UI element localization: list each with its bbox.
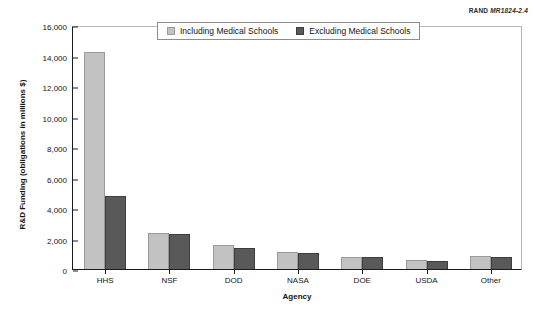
source-credit: RAND MR1824-2.4 (469, 7, 528, 14)
y-tick-mark (73, 271, 78, 272)
bar-other-excluding[interactable] (491, 257, 512, 269)
bar-group: NSF (137, 27, 201, 269)
x-tick-label-dod: DOD (225, 276, 243, 285)
figure-container: RAND MR1824-2.4 R&D Funding (obligations… (0, 0, 540, 313)
bar-dod-including[interactable] (213, 245, 234, 269)
y-tick-label: 0 (63, 267, 67, 276)
bar-nasa-excluding[interactable] (298, 253, 319, 269)
bar-series-container: HHSNSFDODNASADOEUSDAOther (73, 27, 521, 269)
x-tick-mark (427, 269, 428, 274)
y-axis-title: R&D Funding (obligations in millions $) (18, 55, 27, 255)
x-tick-label-other: Other (481, 276, 501, 285)
y-tick-label: 4,000 (47, 206, 67, 215)
bar-doe-including[interactable] (341, 257, 362, 269)
bar-nsf-excluding[interactable] (169, 234, 190, 269)
legend-swatch-icon (167, 27, 175, 35)
y-tick-label: 12,000 (43, 84, 67, 93)
bar-group: DOE (330, 27, 394, 269)
source-credit-code: MR1824-2.4 (490, 7, 528, 14)
x-tick-label-usda: USDA (415, 276, 437, 285)
bar-nasa-including[interactable] (277, 252, 298, 269)
legend-entry-excluding[interactable]: Excluding Medical Schools (296, 26, 410, 36)
bar-hhs-including[interactable] (84, 52, 105, 269)
x-tick-label-nasa: NASA (287, 276, 309, 285)
y-tick-label: 2,000 (47, 236, 67, 245)
x-tick-label-hhs: HHS (97, 276, 114, 285)
x-tick-label-doe: DOE (354, 276, 371, 285)
bar-group: USDA (394, 27, 458, 269)
bar-usda-including[interactable] (406, 260, 427, 269)
source-credit-prefix: RAND (469, 7, 489, 14)
x-tick-mark (491, 269, 492, 274)
y-tick-label: 16,000 (43, 23, 67, 32)
bar-other-including[interactable] (470, 256, 491, 269)
bar-usda-excluding[interactable] (427, 261, 448, 269)
x-tick-label-nsf: NSF (161, 276, 177, 285)
y-tick-label: 10,000 (43, 114, 67, 123)
bar-hhs-excluding[interactable] (105, 196, 126, 269)
y-tick-label: 14,000 (43, 53, 67, 62)
x-tick-mark (105, 269, 106, 274)
legend-entry-including[interactable]: Including Medical Schools (167, 26, 278, 36)
bar-group: HHS (73, 27, 137, 269)
y-tick-label: 6,000 (47, 175, 67, 184)
y-tick-label: 8,000 (47, 145, 67, 154)
legend-swatch-icon (296, 27, 304, 35)
x-axis-title: Agency (72, 292, 522, 301)
bar-nsf-including[interactable] (148, 233, 169, 269)
chart-legend: Including Medical SchoolsExcluding Medic… (157, 22, 420, 40)
x-tick-mark (234, 269, 235, 274)
x-tick-mark (362, 269, 363, 274)
bar-dod-excluding[interactable] (234, 248, 255, 269)
legend-label: Excluding Medical Schools (309, 26, 410, 36)
plot-area: 02,0004,0006,0008,00010,00012,00014,0001… (72, 26, 522, 270)
x-tick-mark (169, 269, 170, 274)
bar-group: NASA (266, 27, 330, 269)
bar-doe-excluding[interactable] (362, 257, 383, 269)
bar-group: Other (459, 27, 523, 269)
bar-group: DOD (202, 27, 266, 269)
legend-label: Including Medical Schools (180, 26, 278, 36)
x-tick-mark (298, 269, 299, 274)
